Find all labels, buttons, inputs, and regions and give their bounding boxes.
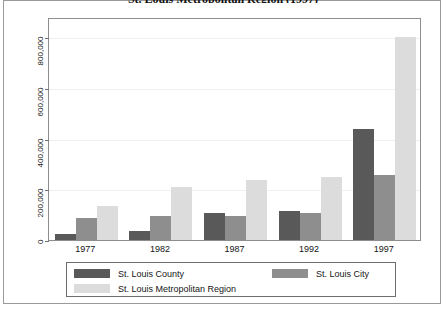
bar-metro-1997[interactable] bbox=[395, 37, 416, 240]
bar-metro-1992[interactable] bbox=[321, 177, 342, 240]
bar-group-1997 bbox=[353, 19, 416, 240]
bar-city-1987[interactable] bbox=[225, 216, 246, 240]
bar-county-1992[interactable] bbox=[279, 211, 300, 240]
bar-group-1977 bbox=[55, 19, 118, 240]
bar-county-1977[interactable] bbox=[55, 234, 76, 240]
bar-group-1982 bbox=[129, 19, 192, 240]
legend-item-st-louis-metropolitan-region[interactable]: St. Louis Metropolitan Region bbox=[74, 282, 236, 295]
bar-city-1997[interactable] bbox=[374, 175, 395, 240]
bar-city-1982[interactable] bbox=[150, 216, 171, 240]
y-axis-tick-labels: 0200,000400,000600,000800,000 bbox=[4, 1, 43, 305]
x-axis-tick-label-1997: 1997 bbox=[346, 244, 421, 254]
legend-label-metro: St. Louis Metropolitan Region bbox=[118, 284, 236, 294]
bar-metro-1977[interactable] bbox=[97, 206, 118, 240]
bar-county-1997[interactable] bbox=[353, 129, 374, 241]
bar-city-1977[interactable] bbox=[76, 218, 97, 240]
x-axis-tick-label-1987: 1987 bbox=[197, 244, 272, 254]
y-axis-tick-label: 800,000 bbox=[36, 37, 45, 97]
x-axis-tick-label-1992: 1992 bbox=[272, 244, 347, 254]
x-axis-tick-label-1982: 1982 bbox=[123, 244, 198, 254]
legend-label-county: St. Louis County bbox=[118, 269, 184, 279]
bar-metro-1987[interactable] bbox=[246, 180, 267, 240]
y-axis-tick bbox=[45, 190, 49, 191]
bar-county-1982[interactable] bbox=[129, 231, 150, 240]
legend-swatch-icon-county bbox=[74, 269, 110, 278]
bar-group-1992 bbox=[279, 19, 342, 240]
y-axis-tick bbox=[45, 89, 49, 90]
chart-title: St. Louis Metropolitan Region (1997) bbox=[4, 0, 442, 3]
y-axis-tick bbox=[45, 38, 49, 39]
bar-county-1987[interactable] bbox=[204, 213, 225, 240]
x-axis-tick-label-1977: 1977 bbox=[48, 244, 123, 254]
legend-swatch-icon-metro bbox=[74, 284, 110, 293]
figure-frame: St. Louis Metropolitan Region (1997) 020… bbox=[3, 0, 441, 304]
legend-swatch-icon-city bbox=[272, 269, 308, 278]
plot-inner bbox=[49, 19, 420, 240]
bar-group-1987 bbox=[204, 19, 267, 240]
y-axis-tick-label: 0 bbox=[36, 240, 45, 300]
y-axis-tick bbox=[45, 241, 49, 242]
legend-item-st-louis-county[interactable]: St. Louis County bbox=[74, 267, 184, 280]
legend-item-st-louis-city[interactable]: St. Louis City bbox=[272, 267, 369, 280]
plot-area bbox=[48, 18, 421, 241]
bar-metro-1982[interactable] bbox=[171, 187, 192, 240]
legend-label-city: St. Louis City bbox=[316, 269, 369, 279]
legend: St. Louis County St. Louis City St. Loui… bbox=[66, 262, 396, 297]
bar-city-1992[interactable] bbox=[300, 213, 321, 240]
x-axis-tick-labels: 19771982198719921997 bbox=[48, 244, 421, 258]
y-axis-tick bbox=[45, 140, 49, 141]
